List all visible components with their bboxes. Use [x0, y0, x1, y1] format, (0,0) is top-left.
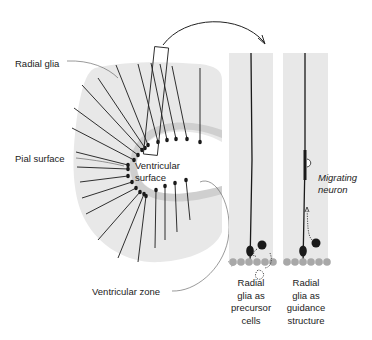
caption-line: precursor: [221, 302, 281, 315]
caption-precursor: Radial glia as precursor cells: [221, 277, 281, 327]
label-radial-glia: Radial glia: [15, 58, 59, 69]
caption-line: Radial: [276, 277, 336, 290]
label-migrating-neuron-2: neuron: [318, 184, 348, 195]
diagram-canvas: Radial glia Pial surface Ventricular sur…: [0, 0, 372, 340]
caption-line: guidance: [276, 302, 336, 315]
caption-line: cells: [221, 315, 281, 328]
caption-guidance: Radial glia as guidance structure: [276, 277, 336, 327]
label-ventricular-surface-1: Ventricular: [135, 160, 180, 171]
panel-guidance: [283, 53, 331, 266]
panel-precursor: [229, 53, 277, 279]
caption-line: glia as: [221, 290, 281, 303]
caption-line: glia as: [276, 290, 336, 303]
label-ventricular-surface-2: surface: [135, 172, 166, 183]
label-ventricular-zone: Ventricular zone: [92, 286, 160, 297]
caption-line: structure: [276, 315, 336, 328]
zoom-arrow: [163, 22, 264, 45]
label-migrating-neuron-1: Migrating: [318, 172, 357, 183]
label-pial-surface: Pial surface: [15, 153, 65, 164]
caption-line: Radial: [221, 277, 281, 290]
